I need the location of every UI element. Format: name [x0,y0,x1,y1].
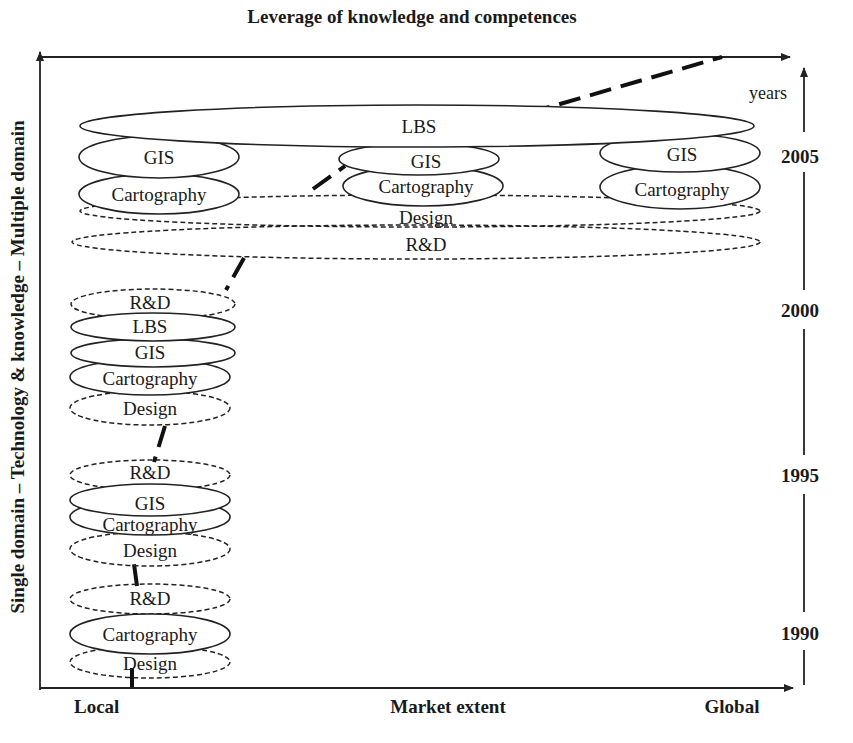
evolution-diagram: Leverage of knowledge and competences Si… [0,0,853,743]
stage-2000-lbs: LBS [133,316,168,337]
stage-2005-global-gis: GIS [667,144,698,165]
year-tick-2005: 2005 [781,146,819,167]
stage-2005-local-gis: GIS [144,147,175,168]
stage-1990: R&D Cartography Design [70,584,230,678]
bottom-axis-left-label: Local [74,696,119,717]
stage-2000-gis: GIS [135,342,166,363]
stage-2005-middle-gis: GIS [411,151,442,172]
stage-2005-design: Design [399,207,453,228]
stage-1990-rd: R&D [129,588,170,609]
stage-1990-design: Design [123,653,177,674]
bottom-axis-right-label: Global [705,696,760,717]
top-axis-label: Leverage of knowledge and competences [247,6,576,27]
stage-2005: LBS GIS Cartography GIS Cartography GIS … [72,105,760,259]
stage-2005-lbs: LBS [402,116,437,137]
years-label: years [749,83,787,103]
stage-2005-rd: R&D [405,234,446,255]
stage-2000: R&D LBS GIS Cartography Design [70,289,235,425]
stage-2005-middle-cartography: Cartography [379,176,474,197]
stage-2000-cartography: Cartography [103,368,198,389]
stage-1990-cartography: Cartography [103,624,198,645]
bottom-axis-center-label: Market extent [390,696,506,717]
year-tick-1990: 1990 [781,623,819,644]
stage-1995-cartography: Cartography [103,514,198,535]
stage-1995-design: Design [123,540,177,561]
stage-1995-rd: R&D [129,462,170,483]
left-axis-label: Single domain – Technology & knowledge –… [7,120,28,613]
stage-2005-global-cartography: Cartography [635,179,730,200]
stage-2005-local-cartography: Cartography [112,184,207,205]
stage-1995: R&D GIS Cartography Design [70,460,230,566]
stage-2000-rd: R&D [129,292,170,313]
stage-1995-gis: GIS [135,493,166,514]
year-tick-2000: 2000 [781,300,819,321]
stage-2000-design: Design [123,398,177,419]
year-tick-1995: 1995 [781,465,819,486]
